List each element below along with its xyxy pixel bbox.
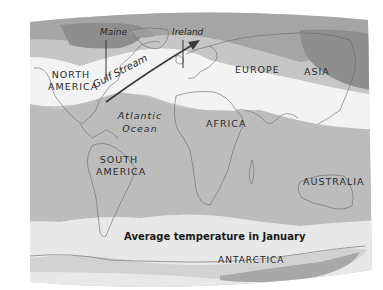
north-america-label-line1: NORTH <box>48 70 94 80</box>
ireland-label: Ireland <box>172 28 203 37</box>
europe-label: EUROPE <box>235 65 280 75</box>
south-america-label: SOUTH AMERICA <box>96 155 142 176</box>
north-america-label-line2: AMERICA <box>48 82 94 92</box>
north-america-label: NORTH AMERICA <box>48 70 94 91</box>
south-america-label-line1: SOUTH <box>96 155 142 165</box>
maine-label: Maine <box>100 28 127 37</box>
south-america-label-line2: AMERICA <box>96 167 142 177</box>
world-map <box>0 0 383 290</box>
map-caption: Average temperature in January <box>124 232 305 242</box>
australia-label: AUSTRALIA <box>303 177 365 187</box>
atlantic-ocean-label-line1: Atlantic <box>112 109 168 122</box>
atlantic-ocean-label-line2: Ocean <box>112 122 168 135</box>
antarctica-label: ANTARCTICA <box>218 256 285 265</box>
africa-label: AFRICA <box>206 119 247 129</box>
map-figure: Maine Ireland NORTH AMERICA Gulf Stream … <box>0 0 383 290</box>
asia-label: ASIA <box>304 67 330 77</box>
atlantic-ocean-label: Atlantic Ocean <box>112 109 168 135</box>
